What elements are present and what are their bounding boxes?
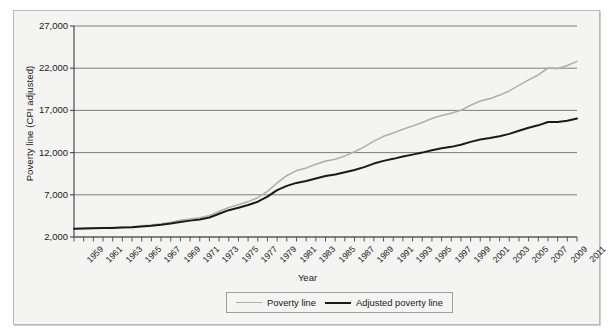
y-tick-label: 2,000 xyxy=(22,232,68,242)
y-tick-label: 27,000 xyxy=(22,21,68,31)
legend-swatch-adjusted-poverty-line xyxy=(325,302,351,304)
y-tick-label: 17,000 xyxy=(22,105,68,115)
legend-item-adjusted-poverty-line: Adjusted poverty line xyxy=(325,297,443,308)
legend-item-poverty-line: Poverty line xyxy=(236,297,316,308)
legend-swatch-poverty-line xyxy=(236,302,262,303)
legend-label-adjusted-poverty-line: Adjusted poverty line xyxy=(356,297,443,308)
y-tick-label: 12,000 xyxy=(22,148,68,158)
y-tick-label: 22,000 xyxy=(22,63,68,73)
chart-legend: Poverty line Adjusted poverty line xyxy=(226,292,453,313)
chart-figure: Poverty line (CPI adjusted) Year 2,0007,… xyxy=(0,0,615,336)
legend-label-poverty-line: Poverty line xyxy=(267,297,316,308)
plot-area xyxy=(0,0,615,336)
y-tick-label: 7,000 xyxy=(22,190,68,200)
